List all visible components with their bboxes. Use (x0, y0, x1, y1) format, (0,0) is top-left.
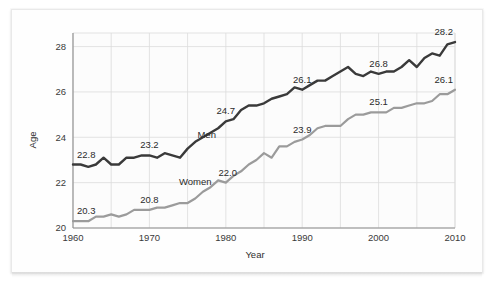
data-point-label: 26.1 (293, 74, 312, 85)
y-tick-label: 28 (55, 41, 66, 52)
x-axis-tick-labels: 196019701980199020002010 (62, 232, 465, 243)
data-point-label: 23.9 (293, 124, 312, 135)
data-point-label: 25.1 (369, 96, 388, 107)
data-point-label: 24.7 (217, 105, 236, 116)
y-tick-label: 24 (55, 132, 66, 143)
data-point-label: 28.2 (435, 26, 454, 37)
data-point-label: 22.8 (77, 149, 96, 160)
data-point-label: 22.0 (219, 167, 238, 178)
line-chart: 2022242628 196019701980199020002010 22.8… (0, 0, 494, 284)
data-point-label: 26.1 (435, 74, 454, 85)
x-tick-label: 2000 (368, 232, 389, 243)
x-tick-label: 2010 (444, 232, 465, 243)
data-point-label: 23.2 (140, 139, 159, 150)
x-tick-label: 1970 (139, 232, 160, 243)
x-tick-label: 1980 (215, 232, 236, 243)
x-tick-label: 1960 (62, 232, 83, 243)
y-axis-title: Age (27, 132, 38, 149)
y-tick-label: 22 (55, 177, 66, 188)
x-tick-label: 1990 (292, 232, 313, 243)
x-axis-title: Year (245, 249, 264, 260)
series-annotation-men: Men (197, 129, 215, 140)
data-point-label: 26.8 (369, 58, 388, 69)
series-annotation-women: Women (179, 176, 212, 187)
data-point-label: 20.3 (77, 205, 96, 216)
figure-root: 2022242628 196019701980199020002010 22.8… (0, 0, 494, 284)
y-axis-tick-labels: 2022242628 (55, 41, 66, 233)
data-point-label: 20.8 (140, 194, 159, 205)
plot-svg: 2022242628 196019701980199020002010 22.8… (0, 0, 494, 284)
y-tick-label: 26 (55, 86, 66, 97)
